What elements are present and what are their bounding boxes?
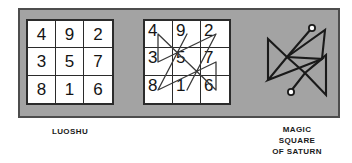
luoshu-cell-r1c1: 4 <box>28 21 56 48</box>
luoshu-cell-r3c3: 6 <box>84 76 112 103</box>
saturn-caption-line-1: MAGIC <box>255 124 339 135</box>
sigil-start-node <box>309 25 315 31</box>
saturn-sigil <box>262 19 332 105</box>
saturn-caption-line-2: SQUARE <box>255 135 339 146</box>
traced-cell-r3c2: 1 <box>173 76 201 103</box>
traced-cell-r2c3: 7 <box>201 48 229 75</box>
saturn-caption-line-3: OF SATURN <box>255 146 339 157</box>
traced-cell-r2c2: 5 <box>173 48 201 75</box>
traced-cell-r2c1: 3 <box>145 48 173 75</box>
luoshu-cell-r3c1: 8 <box>28 76 56 103</box>
luoshu-cell-r2c3: 7 <box>84 48 112 75</box>
luoshu-cell-r2c2: 5 <box>56 48 84 75</box>
figure-root: 4 9 2 3 5 7 8 1 6 4 9 2 3 5 7 8 1 6 <box>0 0 352 163</box>
traced-grid: 4 9 2 3 5 7 8 1 6 <box>143 19 231 105</box>
traced-cell-r3c1: 8 <box>145 76 173 103</box>
luoshu-caption: LUOSHU <box>26 126 114 137</box>
luoshu-cell-r2c1: 3 <box>28 48 56 75</box>
saturn-caption: MAGIC SQUARE OF SATURN <box>255 124 339 157</box>
traced-cell-r1c1: 4 <box>145 21 173 48</box>
traced-cell-r3c3: 6 <box>201 76 229 103</box>
traced-cell-r1c3: 2 <box>201 21 229 48</box>
sigil-end-node <box>288 89 294 95</box>
sigil-segment-upper <box>268 30 325 80</box>
luoshu-cell-r1c2: 9 <box>56 21 84 48</box>
luoshu-cell-r3c2: 1 <box>56 76 84 103</box>
luoshu-cell-r1c3: 2 <box>84 21 112 48</box>
traced-cell-r1c2: 9 <box>173 21 201 48</box>
luoshu-grid: 4 9 2 3 5 7 8 1 6 <box>26 19 114 105</box>
